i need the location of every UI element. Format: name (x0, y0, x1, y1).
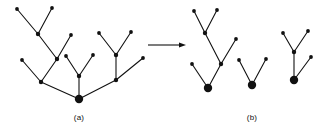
tree-edge (192, 64, 208, 88)
caption-panel-a: (a) (74, 113, 84, 122)
tree-edge (194, 11, 205, 33)
tree-edge (252, 59, 266, 85)
tree-edge (205, 33, 221, 64)
tree-edge (221, 39, 236, 64)
tree-node-internal (114, 53, 118, 57)
tree-a-full (15, 6, 145, 103)
tree-node-leaf (309, 55, 313, 59)
tree-edge (294, 57, 311, 80)
tree-node-leaf (64, 54, 68, 58)
tree-b-left (190, 8, 238, 92)
tree-node-leaf (190, 62, 194, 66)
tree-node-leaf (215, 8, 219, 12)
tree-node-root (248, 81, 256, 89)
tree-edge (116, 32, 131, 55)
tree-node-internal (77, 74, 81, 78)
tree-edge (57, 35, 71, 59)
transformation-arrow (148, 43, 186, 48)
tree-edge (99, 33, 116, 55)
tree-edge (22, 60, 41, 82)
tree-node-internal (39, 80, 43, 84)
tree-node-leaf (20, 58, 24, 62)
tree-node-leaf (264, 57, 268, 61)
arrow-head (179, 43, 186, 48)
tree-node-leaf (129, 30, 133, 34)
tree-b-middle (237, 57, 268, 89)
tree-node-leaf (69, 33, 73, 37)
tree-edge (41, 59, 57, 82)
tree-edge (41, 82, 79, 99)
tree-node-leaf (91, 53, 95, 57)
caption-panel-b: (b) (247, 113, 257, 122)
tree-node-internal (114, 78, 118, 82)
tree-node-internal (55, 57, 59, 61)
tree-node-leaf (141, 56, 145, 60)
tree-node-leaf (15, 7, 19, 11)
tree-edge (66, 56, 79, 76)
tree-node-internal (203, 31, 207, 35)
tree-edge (294, 31, 308, 52)
tree-node-internal (36, 32, 40, 36)
tree-edge (116, 58, 143, 80)
panel-a (15, 6, 145, 103)
tree-node-leaf (97, 31, 101, 35)
tree-edge (79, 80, 116, 99)
tree-edge (79, 55, 93, 76)
tree-node-leaf (306, 29, 310, 33)
tree-node-leaf (281, 31, 285, 35)
tree-decomposition-figure: (a) (b) (0, 0, 326, 134)
tree-node-leaf (50, 6, 54, 10)
panel-b (190, 8, 313, 92)
figure-canvas (0, 0, 326, 134)
tree-node-leaf (237, 58, 241, 62)
tree-node-root (75, 95, 83, 103)
tree-node-leaf (234, 37, 238, 41)
tree-node-internal (219, 62, 223, 66)
tree-edge (38, 8, 52, 34)
tree-node-leaf (192, 9, 196, 13)
tree-edge (38, 34, 57, 59)
tree-b-right (281, 29, 313, 84)
tree-node-root (204, 84, 212, 92)
tree-edge (17, 9, 38, 34)
tree-node-internal (292, 50, 296, 54)
tree-edge (205, 10, 217, 33)
tree-node-root (290, 76, 298, 84)
tree-edge (283, 33, 294, 52)
tree-edge (239, 60, 252, 85)
